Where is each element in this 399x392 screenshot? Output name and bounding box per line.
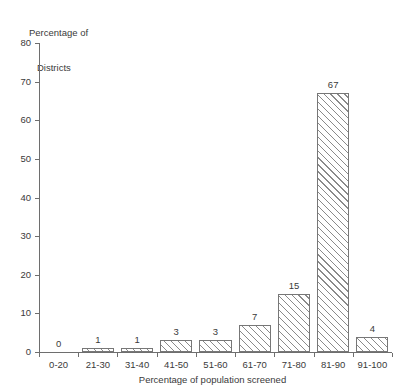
y-tick-30: [35, 236, 39, 237]
bar-chart: Percentage of Districts 0102030405060708…: [0, 0, 399, 392]
bar-value-label-71-80: 15: [269, 280, 319, 291]
y-tick-80: [35, 43, 39, 44]
x-tick-6: [274, 353, 275, 357]
x-axis-line: [39, 352, 392, 353]
bar-value-label-91-100: 4: [347, 323, 397, 334]
y-tick-label-30: 30: [9, 230, 31, 241]
y-tick-label-0: 0: [9, 346, 31, 357]
bar-value-label-61-70: 7: [230, 311, 280, 322]
y-tick-label-60: 60: [9, 114, 31, 125]
y-axis-title-line-2: Districts: [29, 62, 88, 74]
y-tick-50: [35, 159, 39, 160]
y-tick-10: [35, 313, 39, 314]
x-tick-4: [196, 353, 197, 357]
bar-71-80: [278, 294, 310, 352]
bar-61-70: [239, 325, 271, 352]
y-tick-60: [35, 120, 39, 121]
bar-91-100: [356, 337, 388, 352]
bar-31-40: [121, 348, 153, 352]
y-axis-title-line-1: Percentage of: [29, 27, 88, 39]
x-tick-2: [117, 353, 118, 357]
x-axis-title: Percentage of population screened: [0, 374, 399, 385]
x-tick-label-91-100: 91-100: [347, 359, 397, 370]
bar-81-90: [317, 93, 349, 352]
y-tick-label-40: 40: [9, 192, 31, 203]
bar-21-30: [82, 348, 114, 352]
y-tick-40: [35, 198, 39, 199]
y-tick-label-70: 70: [9, 76, 31, 87]
bar-41-50: [160, 340, 192, 352]
y-axis-line: [39, 43, 40, 353]
bar-value-label-81-90: 67: [308, 79, 358, 90]
y-tick-label-80: 80: [9, 37, 31, 48]
x-tick-5: [235, 353, 236, 357]
y-tick-label-10: 10: [9, 307, 31, 318]
bar-value-label-51-60: 3: [191, 326, 241, 337]
x-tick-9: [392, 353, 393, 357]
y-tick-label-50: 50: [9, 153, 31, 164]
x-tick-8: [353, 353, 354, 357]
y-tick-20: [35, 275, 39, 276]
x-tick-3: [157, 353, 158, 357]
x-tick-7: [314, 353, 315, 357]
y-tick-label-20: 20: [9, 269, 31, 280]
y-tick-70: [35, 82, 39, 83]
bar-51-60: [199, 340, 231, 352]
x-tick-1: [78, 353, 79, 357]
x-tick-0: [39, 353, 40, 357]
